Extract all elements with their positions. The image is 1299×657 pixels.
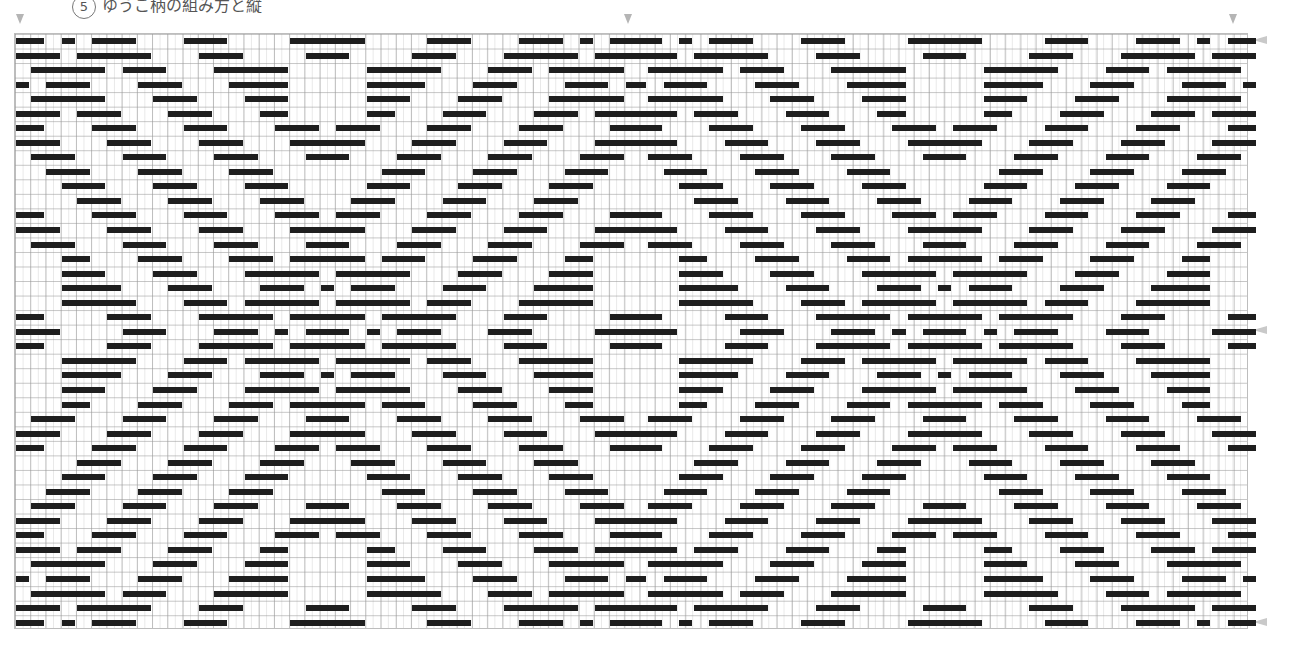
pattern-bar [709, 125, 753, 131]
pattern-bar [275, 445, 319, 451]
pattern-bar [473, 489, 517, 495]
pattern-bar [1106, 503, 1150, 509]
pattern-bar [1090, 82, 1134, 88]
pattern-bar [199, 518, 243, 524]
pattern-bar [633, 314, 661, 320]
pattern-bar [1045, 445, 1089, 451]
pattern-bar [336, 358, 410, 364]
pattern-bar [488, 154, 532, 160]
pattern-bar [908, 431, 982, 437]
pattern-bar [107, 431, 151, 437]
pattern-bar [260, 198, 304, 204]
pattern-bar [1151, 460, 1195, 466]
pattern-bar [443, 198, 487, 204]
pattern-bar [549, 474, 593, 480]
pattern-bar [382, 489, 426, 495]
pattern-bar [488, 329, 532, 335]
pattern-bar [633, 532, 661, 538]
pattern-bar [1014, 329, 1058, 335]
pattern-bar [1045, 212, 1089, 218]
pattern-bar [1121, 431, 1165, 437]
pattern-bar [740, 154, 784, 160]
pattern-bar [1136, 358, 1210, 364]
pattern-bar [831, 329, 875, 335]
pattern-bar [953, 300, 1027, 306]
pattern-bar [77, 460, 121, 466]
pattern-bar [725, 343, 769, 349]
pattern-bar [16, 212, 44, 218]
pattern-bar [62, 372, 121, 378]
pattern-bar [847, 169, 891, 175]
pattern-bar [847, 82, 906, 88]
pattern-bar [427, 212, 471, 218]
pattern-bar [16, 547, 60, 553]
pattern-bar [123, 242, 167, 248]
repeat-marker-top-arrow-icon [624, 14, 632, 24]
pattern-bar [153, 387, 197, 393]
figure-caption: 5ゆうこ柄の組み方と縦 [72, 0, 262, 19]
pattern-bar [62, 256, 90, 262]
pattern-bar [770, 387, 814, 393]
pattern-bar [755, 489, 799, 495]
pattern-bar [184, 445, 228, 451]
pattern-bar [580, 154, 624, 160]
pattern-bar [214, 416, 258, 422]
pattern-bar [549, 561, 623, 567]
pattern-bar [1136, 300, 1210, 306]
pattern-bar [1075, 96, 1119, 102]
pattern-bar [801, 300, 845, 306]
pattern-bar [923, 416, 967, 422]
pattern-bar [306, 329, 350, 335]
pattern-bar [694, 547, 738, 553]
pattern-bar [969, 198, 1013, 204]
pattern-bar [1121, 605, 1195, 611]
pattern-bar [275, 212, 319, 218]
pattern-bar [16, 38, 44, 44]
caption-number: 5 [72, 0, 96, 19]
pattern-bar [786, 285, 830, 291]
pattern-bar [679, 358, 753, 364]
pattern-bar [229, 576, 288, 582]
pattern-bar [412, 140, 456, 146]
pattern-bar [1250, 38, 1256, 44]
pattern-bar [184, 532, 228, 538]
pattern-bar [214, 503, 258, 509]
pattern-bar [984, 183, 1028, 189]
pattern-bar [275, 329, 288, 335]
pattern-bar [245, 474, 289, 480]
pattern-bar [1029, 518, 1073, 524]
pattern-bar [1029, 227, 1073, 233]
pattern-bar [969, 460, 1013, 466]
pattern-bar [648, 96, 722, 102]
pattern-bar [199, 605, 243, 611]
pattern-bar [847, 489, 891, 495]
pattern-bar [984, 67, 1058, 73]
pattern-bar [786, 372, 830, 378]
pattern-bar [1250, 343, 1256, 349]
pattern-bar [633, 343, 661, 349]
pattern-bar [1045, 620, 1089, 626]
pattern-bar [549, 591, 623, 597]
pattern-bar [107, 343, 151, 349]
pattern-bar [1167, 561, 1241, 567]
pattern-bar [488, 242, 532, 248]
pattern-bar [816, 227, 860, 233]
pattern-bar [306, 53, 350, 59]
pattern-bar [229, 169, 273, 175]
pattern-bar [1060, 547, 1104, 553]
pattern-bar [953, 387, 1027, 393]
pattern-bar [1029, 605, 1073, 611]
pattern-bar [412, 518, 456, 524]
pattern-bar [1029, 53, 1073, 59]
pattern-bar [290, 431, 364, 437]
pattern-bar [138, 82, 182, 88]
pattern-bar [107, 518, 151, 524]
pattern-bar [1250, 445, 1256, 451]
pattern-bar [679, 300, 753, 306]
pattern-bar [1167, 67, 1241, 73]
pattern-bar [306, 605, 350, 611]
pattern-bar [16, 140, 60, 146]
caption-text: ゆうこ柄の組み方と縦 [102, 0, 262, 15]
pattern-bar [1250, 532, 1256, 538]
pattern-bar [999, 489, 1043, 495]
